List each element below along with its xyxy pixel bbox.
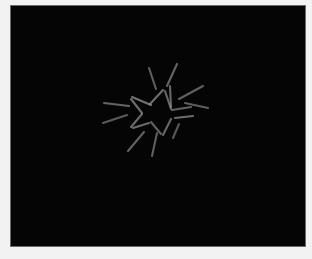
stimulus-background xyxy=(11,6,305,246)
ray-vertical-mid xyxy=(170,86,171,107)
screenshot-stage xyxy=(0,0,312,259)
stimulus-canvas xyxy=(11,6,305,246)
stimulus-display-area xyxy=(11,6,305,246)
